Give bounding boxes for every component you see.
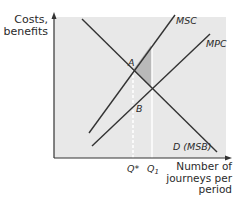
q-star-label: Q* <box>127 163 139 175</box>
point-a-label: A <box>128 57 135 69</box>
plot-area <box>54 17 226 158</box>
mpc-label: MPC <box>206 38 227 50</box>
q1-label: Q1 <box>147 163 159 178</box>
point-b-label: B <box>136 103 143 115</box>
x-axis-label: Number of journeys per period <box>160 161 232 196</box>
msc-label: MSC <box>176 15 197 27</box>
q1-label-subscript: 1 <box>154 168 158 176</box>
x-axis-label-line3: period <box>160 184 232 196</box>
demand-msb-label: D (MSB) <box>173 141 212 153</box>
y-axis-label: Costs, benefits <box>2 14 48 38</box>
x-axis-label-line1: Number of <box>160 161 232 173</box>
y-axis-arrow-icon <box>52 12 57 19</box>
y-axis-label-line2: benefits <box>2 26 48 38</box>
